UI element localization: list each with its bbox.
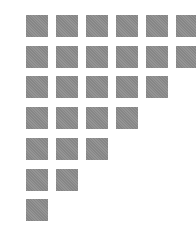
grid-square xyxy=(116,107,138,129)
square-grid xyxy=(0,0,196,226)
grid-square xyxy=(86,76,108,98)
grid-square xyxy=(86,138,108,160)
grid-square xyxy=(146,76,168,98)
grid-square xyxy=(56,46,78,68)
grid-square xyxy=(26,138,48,160)
grid-square xyxy=(26,169,48,191)
grid-square xyxy=(146,46,168,68)
grid-square xyxy=(86,107,108,129)
grid-square xyxy=(116,76,138,98)
grid-square xyxy=(176,46,196,68)
grid-square xyxy=(56,169,78,191)
grid-square xyxy=(56,107,78,129)
grid-square xyxy=(116,46,138,68)
grid-square xyxy=(176,15,196,37)
grid-square xyxy=(116,15,138,37)
grid-square xyxy=(86,15,108,37)
grid-square xyxy=(86,46,108,68)
grid-square xyxy=(56,15,78,37)
grid-square xyxy=(26,46,48,68)
grid-square xyxy=(26,15,48,37)
grid-square xyxy=(146,15,168,37)
grid-square xyxy=(26,76,48,98)
grid-square xyxy=(56,138,78,160)
grid-square xyxy=(26,199,48,221)
grid-square xyxy=(56,76,78,98)
grid-square xyxy=(26,107,48,129)
